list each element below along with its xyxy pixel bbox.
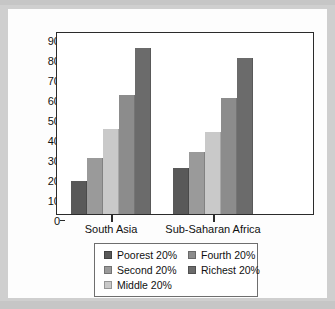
legend-item[interactable]: Fourth 20% [188, 249, 260, 261]
bar [103, 129, 119, 214]
bar [237, 58, 253, 214]
legend-label: Richest 20% [201, 264, 260, 276]
page-band-bottom [0, 301, 335, 309]
legend-label: Middle 20% [117, 279, 172, 291]
bar [135, 48, 151, 214]
bar-group [173, 34, 253, 214]
bar [71, 181, 87, 214]
legend-swatch-icon [104, 281, 112, 289]
y-axis-tick-mark [60, 220, 65, 221]
bar-group [71, 34, 151, 214]
chart-page: 9080706050403020100 Poorest 20%Fourth 20… [0, 0, 335, 309]
legend-item[interactable]: Richest 20% [188, 264, 260, 276]
bar [205, 132, 221, 214]
legend-swatch-icon [188, 266, 196, 274]
x-axis-tick-mark [213, 215, 215, 222]
bar [87, 158, 103, 214]
legend-swatch-icon [188, 251, 196, 259]
legend-swatch-icon [104, 266, 112, 274]
chart-legend: Poorest 20%Fourth 20%Second 20%Richest 2… [94, 243, 258, 297]
legend-item[interactable]: Poorest 20% [104, 249, 188, 261]
chart-card: 9080706050403020100 Poorest 20%Fourth 20… [8, 9, 327, 298]
bar-groups [58, 34, 312, 214]
page-band-top [0, 0, 335, 5]
legend-swatch-icon [104, 251, 112, 259]
bar [173, 168, 189, 214]
legend-label: Poorest 20% [117, 249, 177, 261]
legend-item[interactable]: Middle 20% [104, 279, 188, 291]
legend-grid: Poorest 20%Fourth 20%Second 20%Richest 2… [104, 249, 249, 291]
bar [221, 98, 237, 214]
legend-label: Second 20% [117, 264, 177, 276]
legend-label: Fourth 20% [201, 249, 255, 261]
x-axis-label: Sub-Saharan Africa [143, 223, 283, 235]
bar [189, 152, 205, 214]
legend-item[interactable]: Second 20% [104, 264, 188, 276]
bar [119, 95, 135, 214]
x-axis-tick-mark [111, 215, 113, 222]
